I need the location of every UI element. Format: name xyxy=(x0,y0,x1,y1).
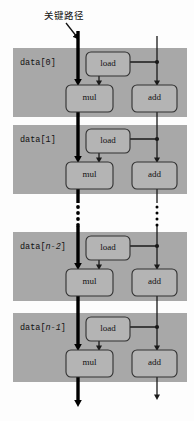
ellipsis-dots xyxy=(76,205,158,227)
node-label-mul-3: mul xyxy=(66,357,113,367)
ellipsis-dot-right-1 xyxy=(156,206,159,209)
node-label-add-0: add xyxy=(132,92,177,102)
ellipsis-dot-right-3 xyxy=(156,218,159,221)
ellipsis-dot-right-2 xyxy=(156,212,159,215)
node-label-mul-0: mul xyxy=(66,92,113,102)
node-label-load-0: load xyxy=(86,58,130,68)
ellipsis-dot-left-2 xyxy=(76,211,80,215)
node-label-load-3: load xyxy=(86,323,130,333)
ellipsis-dot-left-1 xyxy=(76,205,80,209)
critical-path-callout-arrow xyxy=(66,23,77,37)
ellipsis-dot-left-3 xyxy=(76,217,80,221)
node-label-load-2: load xyxy=(86,242,130,252)
ellipsis-dot-left-4 xyxy=(76,223,80,227)
ellipsis-dot-right-4 xyxy=(156,224,159,227)
block-label-1: data[1] xyxy=(20,135,56,145)
critical-path-annotation: 关键路径 xyxy=(44,8,84,22)
node-label-mul-2: mul xyxy=(66,276,113,286)
block-label-0: data[0] xyxy=(20,58,56,68)
node-label-add-2: add xyxy=(132,276,177,286)
block-label-2: data[n-2] xyxy=(20,242,66,252)
diagram-canvas: 关键路径 data[0] data[1] data[n-2] data[n-1]… xyxy=(0,0,194,421)
block-label-3: data[n-1] xyxy=(20,323,66,333)
node-label-add-1: add xyxy=(132,169,177,179)
node-label-load-1: load xyxy=(86,135,130,145)
node-label-mul-1: mul xyxy=(66,169,113,179)
node-label-add-3: add xyxy=(132,357,177,367)
